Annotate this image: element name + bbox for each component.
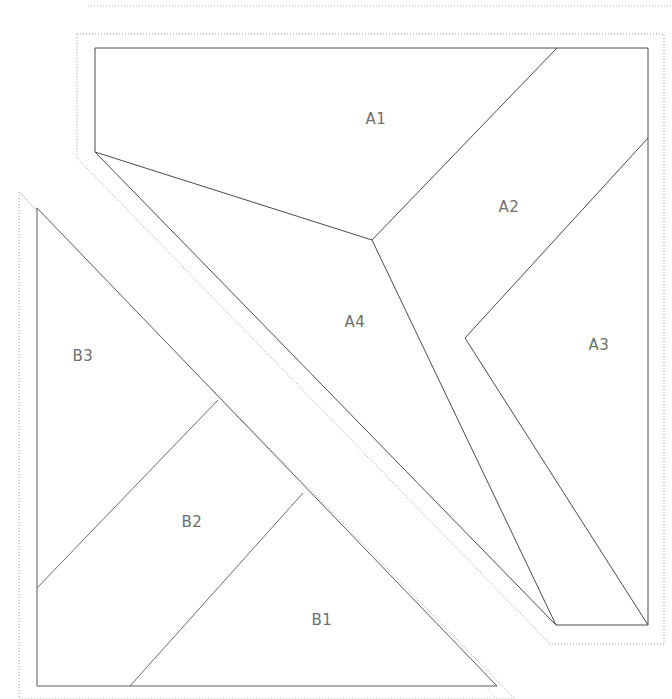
region-label-b3[interactable]: B3: [73, 347, 94, 365]
region-label-a2[interactable]: A2: [499, 198, 520, 216]
region-label-b2[interactable]: B2: [182, 513, 203, 531]
nesting-diagram: A1 A2 A3 A4 B1 B2 B3: [0, 0, 672, 699]
region-label-a4[interactable]: A4: [345, 313, 366, 331]
region-label-a1[interactable]: A1: [366, 110, 387, 128]
region-label-a3[interactable]: A3: [589, 336, 610, 354]
region-label-b1[interactable]: B1: [312, 611, 333, 629]
diagram-canvas: A1 A2 A3 A4 B1 B2 B3: [0, 0, 672, 699]
